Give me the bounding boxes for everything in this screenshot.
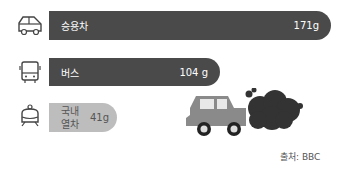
smoke-cloud-icon bbox=[246, 88, 304, 130]
car-exhaust-illustration bbox=[180, 88, 330, 143]
bus-icon bbox=[18, 60, 42, 84]
train-icon bbox=[18, 104, 42, 130]
bar-label: 국내열차 bbox=[49, 105, 79, 131]
bar-car: 승용차 171g bbox=[49, 11, 331, 40]
bar-value: 104 g bbox=[179, 67, 220, 78]
bar-label: 버스 bbox=[49, 65, 79, 80]
bar-bus: 버스 104 g bbox=[49, 58, 220, 86]
car-icon bbox=[16, 14, 44, 36]
bar-train: 국내열차 41g bbox=[49, 103, 117, 132]
bar-label: 승용차 bbox=[49, 18, 88, 33]
bar-value: 171g bbox=[294, 20, 331, 31]
source-label: 출처: BBC bbox=[280, 150, 320, 163]
bar-value: 41g bbox=[90, 112, 117, 123]
